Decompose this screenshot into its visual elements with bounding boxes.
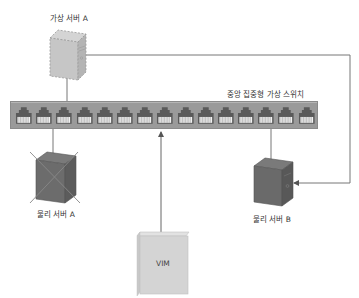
ethernet-port-icon[interactable] bbox=[177, 106, 195, 125]
ethernet-port-icon[interactable] bbox=[217, 106, 235, 125]
ethernet-port-icon[interactable] bbox=[55, 106, 73, 125]
ethernet-port-icon[interactable] bbox=[116, 106, 134, 125]
physical-server-a-icon[interactable] bbox=[36, 152, 76, 203]
ethernet-port-icon[interactable] bbox=[277, 106, 295, 125]
vim-label: VIM bbox=[156, 259, 170, 268]
connections-layer bbox=[0, 0, 359, 298]
ethernet-port-icon[interactable] bbox=[76, 106, 94, 125]
switch-ports bbox=[15, 106, 315, 125]
ethernet-port-icon[interactable] bbox=[298, 106, 316, 125]
virtual-server-a-label: 가상 서버 A bbox=[50, 12, 88, 23]
central-virtual-switch[interactable] bbox=[10, 101, 318, 129]
ethernet-port-icon[interactable] bbox=[257, 106, 275, 125]
ethernet-port-icon[interactable] bbox=[96, 106, 114, 125]
physical-server-a-label: 물리 서버 A bbox=[37, 208, 75, 219]
ethernet-port-icon[interactable] bbox=[156, 106, 174, 125]
ethernet-port-icon[interactable] bbox=[197, 106, 215, 125]
virtual-server-a-icon[interactable] bbox=[50, 30, 86, 80]
ethernet-port-icon[interactable] bbox=[136, 106, 154, 125]
physical-server-b-icon[interactable] bbox=[254, 158, 293, 206]
ethernet-port-icon[interactable] bbox=[15, 106, 33, 125]
ethernet-port-icon[interactable] bbox=[35, 106, 53, 125]
physical-server-b-label: 물리 서버 B bbox=[253, 213, 291, 224]
switch-label: 중앙 집중형 가상 스위치 bbox=[227, 88, 304, 99]
ethernet-port-icon[interactable] bbox=[237, 106, 255, 125]
